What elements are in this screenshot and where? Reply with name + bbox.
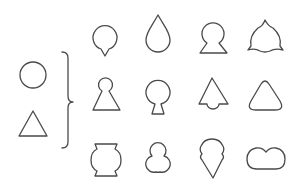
option-ice-cream-cone (200, 139, 224, 178)
option-bell-triangle (199, 78, 228, 109)
option-circle-on-stand (146, 80, 170, 114)
source-shapes (19, 62, 47, 136)
curly-brace (62, 52, 73, 148)
option-row-1 (93, 15, 283, 56)
option-cloud-lips (247, 148, 285, 169)
source-triangle (19, 111, 47, 136)
option-teardrop (146, 15, 170, 52)
option-vase (91, 144, 121, 176)
option-keyhole (200, 23, 227, 53)
option-rounded-triangle (249, 81, 281, 110)
option-row-2 (93, 78, 282, 114)
option-pawn (93, 78, 120, 110)
option-row-3 (91, 139, 285, 178)
option-trefoil (146, 143, 171, 173)
shape-diagram (0, 0, 299, 192)
option-circle-with-point (93, 26, 117, 56)
source-circle (20, 62, 46, 88)
option-pointed-rounded-triangle (248, 20, 283, 52)
